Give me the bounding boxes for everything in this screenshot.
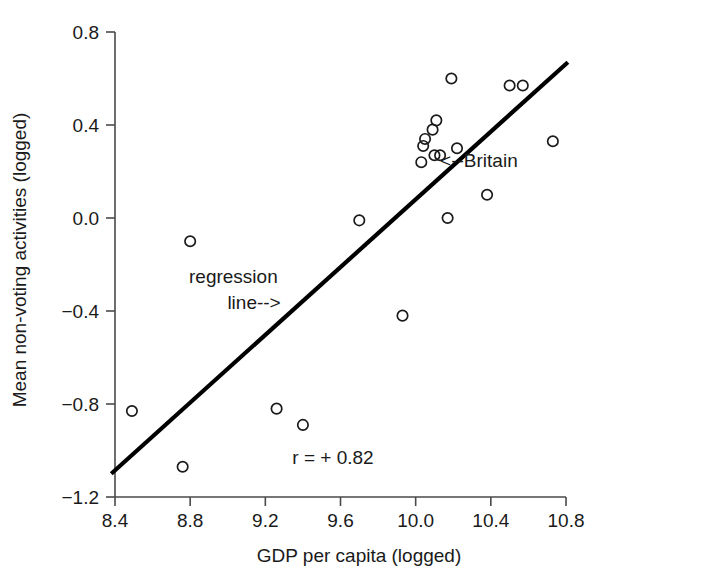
- y-tick-label: −1.2: [61, 487, 99, 508]
- x-tick-label: 8.4: [102, 510, 129, 531]
- correlation: r = + 0.82: [292, 447, 373, 468]
- x-tick-label: 9.6: [327, 510, 353, 531]
- britain-label: <--Britain: [440, 150, 518, 171]
- y-axis-title: Mean non-voting activities (logged): [9, 113, 30, 408]
- x-tick-label: 10.8: [548, 510, 585, 531]
- regression-label-line2: line-->: [227, 292, 280, 313]
- y-tick-label: −0.8: [61, 394, 99, 415]
- x-axis-title: GDP per capita (logged): [257, 545, 462, 566]
- y-tick-label: 0.0: [73, 208, 99, 229]
- plot-canvas: 0.80.40.0−0.4−0.8−1.2 8.48.89.29.610.010…: [0, 0, 718, 582]
- scatter-plot-figure: 0.80.40.0−0.4−0.8−1.2 8.48.89.29.610.010…: [0, 0, 718, 582]
- plot-background: [0, 0, 718, 582]
- y-tick-label: −0.4: [61, 301, 99, 322]
- x-tick-label: 8.8: [177, 510, 203, 531]
- x-tick-label: 9.2: [252, 510, 278, 531]
- regression-label-line1: regression: [189, 266, 278, 287]
- x-tick-label: 10.4: [472, 510, 509, 531]
- y-tick-label: 0.8: [73, 22, 99, 43]
- y-tick-label: 0.4: [73, 115, 100, 136]
- x-tick-label: 10.0: [397, 510, 434, 531]
